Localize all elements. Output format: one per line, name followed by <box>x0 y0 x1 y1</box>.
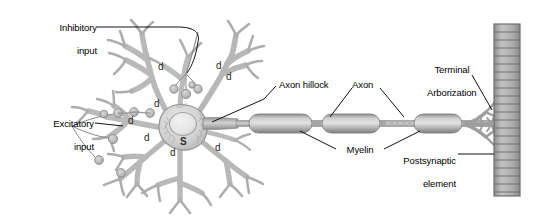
node-of-ranvier <box>313 121 321 127</box>
myelin-segment <box>249 114 312 133</box>
leader-axon-left <box>330 88 352 117</box>
label-axon-hillock: Axon hillock <box>279 79 329 91</box>
label-excitatory-input-line1: Excitatory <box>53 118 94 129</box>
postsynaptic-element-bar <box>494 24 520 196</box>
label-inhibitory-input-line1: Inhibitory <box>59 22 97 33</box>
axon-and-myelin <box>203 114 496 133</box>
dendrite-marker: d <box>144 133 150 143</box>
leader-excitatory <box>95 123 123 126</box>
label-postsynaptic-element-line1: Postsynaptic <box>403 155 456 166</box>
leader-myelin-left <box>300 131 336 149</box>
dendrite-marker: d <box>216 61 222 71</box>
dendrite-marker: d <box>170 148 176 158</box>
dendrite-marker: d <box>154 99 160 109</box>
dendrite-marker: d <box>226 72 232 82</box>
label-postsynaptic-element: Postsynaptic element <box>384 143 456 201</box>
label-inhibitory-input: Inhibitory input <box>8 10 97 68</box>
label-excitatory-input-line2: input <box>74 141 94 152</box>
myelin-segment <box>414 114 462 133</box>
dendrite-marker: d <box>158 62 164 72</box>
dendrite-marker: d <box>215 143 221 153</box>
label-excitatory-input: Excitatory input <box>6 106 94 164</box>
label-postsynaptic-element-line2: element <box>423 178 456 189</box>
neuron-diagram-figure: Inhibitory input Excitatory input Axon h… <box>0 0 534 217</box>
axon-hillock-shape <box>203 118 238 130</box>
label-axon: Axon <box>352 79 373 91</box>
label-myelin: Myelin <box>338 144 382 156</box>
nucleus <box>170 113 197 136</box>
label-terminal-arborization: Terminal Arborization <box>410 52 484 110</box>
soma-marker: S <box>180 137 187 147</box>
dendrite-marker: d <box>128 116 134 126</box>
label-inhibitory-input-line2: input <box>77 45 97 56</box>
label-terminal-arborization-line2: Arborization <box>427 87 477 98</box>
leader-axon-right <box>380 88 404 117</box>
label-terminal-arborization-line1: Terminal <box>434 64 469 75</box>
node-of-ranvier <box>380 121 385 127</box>
